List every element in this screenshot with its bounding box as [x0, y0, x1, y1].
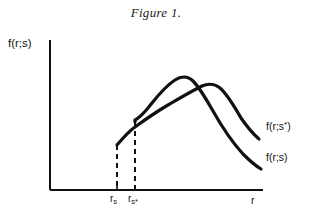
- curve-label-star-base: f(r;s: [266, 120, 284, 132]
- plot-canvas: [0, 0, 312, 217]
- x-tick-label-rs-star: rs*: [128, 193, 138, 206]
- curve-f-r-s: [117, 84, 259, 145]
- figure-container: Figure 1. f(r;s) f(r;s*) f(r;s) r rs rs*: [0, 0, 312, 217]
- curve-f-r-s-star: [135, 77, 261, 169]
- x-tick-label-rs: rs: [110, 193, 117, 206]
- curve-label-star-close: ): [287, 120, 291, 132]
- curve-label-f-r-s: f(r;s): [266, 151, 288, 163]
- tick-rs-subscript: s: [113, 197, 117, 206]
- y-axis-label: f(r;s): [8, 37, 32, 49]
- x-axis-label: r: [251, 194, 255, 206]
- tick-rs-star-superscript: *: [135, 197, 138, 206]
- curve-label-f-r-s-star: f(r;s*): [266, 120, 291, 132]
